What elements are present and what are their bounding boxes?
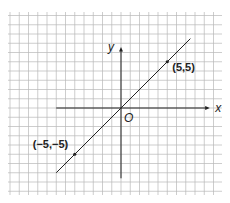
x-axis-arrow-icon xyxy=(205,106,210,110)
y-axis-label: y xyxy=(107,40,115,54)
point-label: (−5,−5) xyxy=(33,138,69,150)
origin-label: O xyxy=(124,111,133,125)
point-label: (5,5) xyxy=(172,61,195,73)
line-y-equals-x xyxy=(56,39,190,173)
data-point xyxy=(73,153,76,156)
data-point xyxy=(166,60,169,63)
x-axis-label: x xyxy=(214,101,222,115)
coordinate-plot: xyO(5,5)(−5,−5) xyxy=(0,0,230,203)
y-axis-arrow-icon xyxy=(119,47,123,52)
